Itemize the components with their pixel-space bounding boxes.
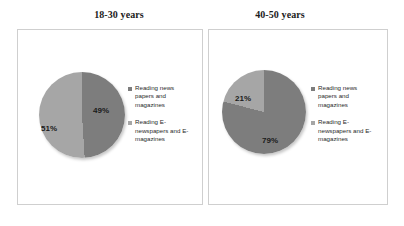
pie-label-right-enewspapers: 21% [235,94,251,103]
legend-item-enewspapers: Reading E-newspapers and E-magazines [311,118,375,143]
legend-item-newspapers: Reading news papers and magazines [128,84,192,109]
pie-chart-left [39,72,125,158]
legend-swatch-icon [311,87,315,91]
legend-item-label: Reading news papers and magazines [135,84,192,109]
chart-title-left: 18-30 years [74,9,164,20]
legend-item-newspapers: Reading news papers and magazines [311,84,375,109]
pie-slices-left [39,72,125,158]
pie-label-right-newspapers: 79% [262,136,278,145]
legend-left: Reading news papers and magazines Readin… [128,84,192,152]
legend-item-enewspapers: Reading E-newspapers and E-magazines [128,118,192,143]
figure-container: 18-30 years 49% 51% Reading news papers … [0,0,404,226]
pie-label-left-enewspapers: 51% [41,124,57,133]
legend-item-label: Reading E-newspapers and E-magazines [135,118,192,143]
legend-item-label: Reading news papers and magazines [318,84,375,109]
pie-label-left-newspapers: 49% [93,106,109,115]
legend-swatch-icon [128,87,132,91]
legend-swatch-icon [311,121,315,125]
legend-item-label: Reading E-newspapers and E-magazines [318,118,375,143]
chart-title-right: 40-50 years [235,9,325,20]
legend-right: Reading news papers and magazines Readin… [311,84,375,152]
legend-swatch-icon [128,121,132,125]
